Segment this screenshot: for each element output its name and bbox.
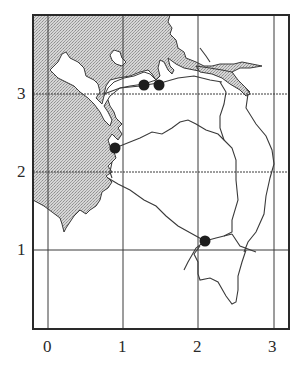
shaded-region (33, 15, 262, 232)
x-tick-label-2: 2 (193, 338, 202, 355)
map-figure (0, 0, 302, 370)
west-to-east-route (115, 120, 238, 236)
north-creek (200, 48, 210, 62)
x-tick-label-1: 1 (118, 338, 127, 355)
y-tick-label-3: 3 (17, 85, 26, 102)
marker-south[interactable] (200, 236, 211, 247)
marker-north-east[interactable] (154, 80, 165, 91)
marker-north-west[interactable] (139, 80, 150, 91)
marker-west[interactable] (110, 143, 121, 154)
markers (110, 80, 211, 247)
x-tick-label-0: 0 (43, 338, 52, 355)
x-tick-label-3: 3 (268, 338, 277, 355)
southern-coast (194, 246, 246, 304)
y-tick-label-1: 1 (17, 241, 26, 258)
east-river (220, 82, 226, 140)
y-tick-label-2: 2 (17, 163, 26, 180)
estuary (196, 66, 250, 96)
far-east-river (244, 94, 274, 252)
